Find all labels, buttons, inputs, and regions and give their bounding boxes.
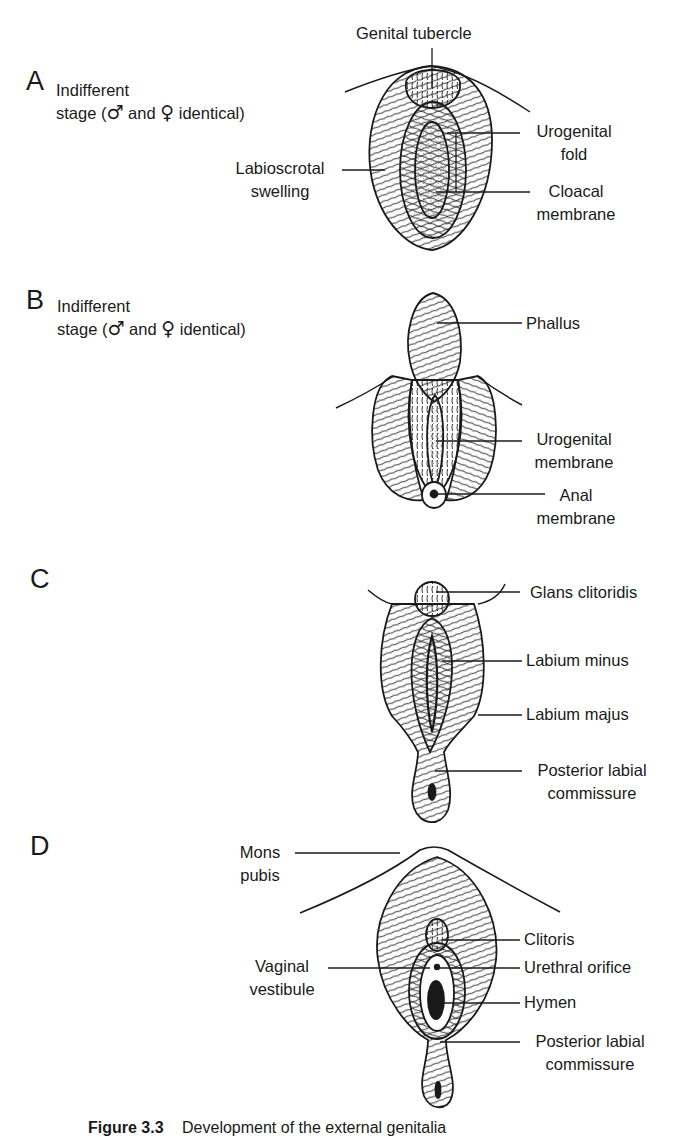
label-urogenital-membrane: Urogenital membrane [524,428,624,474]
label-urogenital-fold: Urogenital fold [524,120,624,166]
figure-caption-text: Development of the external genitalia [182,1119,446,1136]
stage-line-2: stage (♂ and ♀ identical) [56,101,245,124]
label-posterior-labial-commissure-d: Posterior labial commissure [520,1030,660,1076]
label-posterior-labial-commissure-c: Posterior labial commissure [522,759,662,805]
figure-number: Figure 3.3 [88,1119,164,1136]
label-labium-majus: Labium majus [526,703,629,726]
panel-b-drawing [336,293,545,508]
panel-letter-c: C [30,566,50,593]
label-genital-tubercle: Genital tubercle [356,22,472,45]
label-labioscrotal-swelling: Labioscrotal swelling [222,157,338,203]
female-symbol-icon: ♀ [161,317,175,339]
label-vaginal-vestibule: Vaginal vestibule [240,955,324,1001]
stage-line-2: stage (♂ and ♀ identical) [57,317,246,340]
panel-a-drawing [342,48,530,250]
male-symbol-icon: ♂ [107,317,124,339]
label-clitoris: Clitoris [524,928,574,951]
label-phallus: Phallus [526,312,580,335]
stage-line-1: Indifferent [56,79,245,101]
label-anal-membrane: Anal membrane [526,484,626,530]
label-urethral-orifice: Urethral orifice [524,956,631,979]
label-glans-clitoridis: Glans clitoridis [530,581,637,604]
label-hymen: Hymen [524,991,576,1014]
male-symbol-icon: ♂ [106,101,123,123]
panel-letter-b: B [26,287,44,314]
panel-c-drawing [368,582,522,822]
label-cloacal-membrane: Cloacal membrane [526,180,626,226]
stage-line-1: Indifferent [57,295,246,317]
female-symbol-icon: ♀ [160,101,174,123]
panel-letter-a: A [26,68,44,95]
figure-caption: Figure 3.3 Development of the external g… [88,1119,446,1137]
panel-letter-d: D [30,833,50,860]
label-labium-minus: Labium minus [526,649,629,672]
panel-a-stage-label: Indifferent stage (♂ and ♀ identical) [56,79,245,124]
label-mons-pubis: Mons pubis [228,841,292,887]
panel-b-stage-label: Indifferent stage (♂ and ♀ identical) [57,295,246,340]
